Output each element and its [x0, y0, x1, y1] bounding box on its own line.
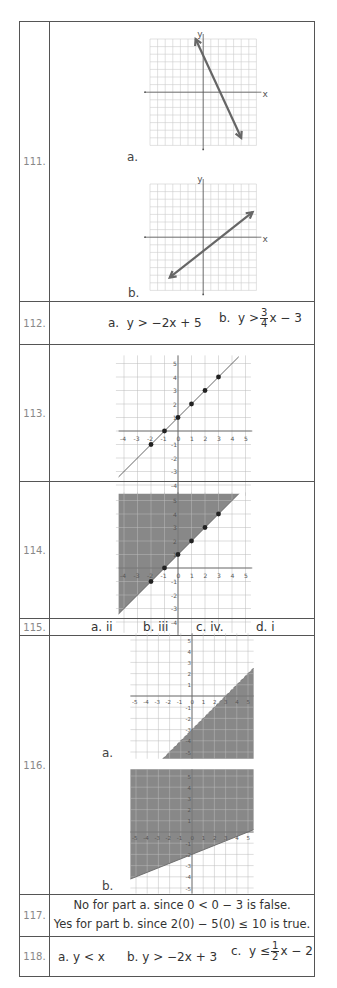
svg-text:1: 1 — [190, 572, 194, 579]
answer-a: a. y < x — [58, 950, 105, 964]
row-116: 116. -5-4-3-2-101234554321-1-2-3-4-5 a. … — [20, 635, 314, 894]
svg-text:-3: -3 — [154, 835, 160, 841]
svg-text:-2: -2 — [166, 835, 171, 841]
svg-text:-3: -3 — [134, 572, 140, 579]
svg-text:2: 2 — [204, 572, 208, 579]
svg-text:-3: -3 — [154, 699, 160, 705]
svg-text:2: 2 — [213, 699, 217, 705]
svg-text:5: 5 — [244, 572, 248, 579]
svg-text:-2: -2 — [147, 435, 153, 442]
answer-line-1: No for part a. since 0 < 0 − 3 is false. — [50, 898, 314, 912]
svg-text:1: 1 — [190, 435, 194, 442]
row-114: 114. -4-3-2-101234554321-1-2-3-4 — [20, 481, 314, 618]
svg-text:1: 1 — [202, 699, 206, 705]
svg-text:4: 4 — [173, 374, 177, 381]
svg-text:0: 0 — [177, 572, 181, 579]
svg-text:2: 2 — [173, 401, 177, 408]
svg-text:4: 4 — [173, 511, 177, 518]
graph-111a: xy — [130, 27, 270, 152]
graph-113: -4-3-2-101234554321-1-2-3-4 — [114, 345, 274, 482]
row-content: -5-4-3-2-101234554321-1-2-3-4-5 a. -5-4-… — [50, 636, 314, 894]
svg-text:-3: -3 — [171, 468, 177, 475]
svg-text:-3: -3 — [134, 435, 140, 442]
svg-text:2: 2 — [173, 538, 177, 545]
row-number: 114. — [20, 482, 50, 618]
svg-text:0: 0 — [191, 699, 195, 705]
svg-text:3: 3 — [224, 699, 228, 705]
svg-text:5: 5 — [173, 360, 177, 367]
svg-text:y: y — [197, 174, 203, 184]
svg-text:-4: -4 — [143, 835, 149, 841]
svg-text:-5: -5 — [186, 886, 192, 892]
part-label-a: a. — [127, 150, 138, 164]
svg-text:-5: -5 — [186, 750, 192, 756]
svg-text:-3: -3 — [186, 727, 192, 733]
svg-text:2: 2 — [188, 671, 192, 677]
row-number: 116. — [20, 636, 50, 894]
row-content: a. ii b. iii c. iv. d. i — [50, 619, 314, 635]
svg-text:-4: -4 — [120, 572, 126, 579]
answer-b: b. iii — [143, 620, 168, 634]
svg-text:4: 4 — [231, 572, 235, 579]
graph-116a: -5-4-3-2-101234554321-1-2-3-4-5 — [130, 638, 260, 762]
svg-text:-1: -1 — [186, 841, 191, 847]
svg-text:3: 3 — [217, 435, 221, 442]
svg-text:-3: -3 — [186, 863, 192, 869]
svg-text:5: 5 — [247, 699, 251, 705]
answer-b: b. y >34x − 3 — [219, 308, 302, 329]
svg-text:3: 3 — [217, 572, 221, 579]
svg-text:-1: -1 — [161, 435, 167, 442]
svg-text:4: 4 — [188, 649, 192, 655]
svg-text:-1: -1 — [161, 572, 167, 579]
svg-text:x: x — [262, 89, 268, 99]
svg-text:0: 0 — [177, 435, 181, 442]
svg-text:-1: -1 — [171, 578, 177, 585]
answer-b: b. y > −2x + 3 — [127, 950, 217, 964]
answer-table: 111. xy a. xy b. 112. a. y > −2x + 5 b. … — [19, 21, 315, 977]
row-113: 113. -4-3-2-101234554321-1-2-3-4 — [20, 344, 314, 481]
svg-text:-2: -2 — [186, 716, 191, 722]
svg-text:-5: -5 — [132, 835, 138, 841]
row-content: xy a. xy b. — [50, 22, 314, 301]
svg-text:-1: -1 — [177, 699, 182, 705]
svg-text:2: 2 — [213, 835, 217, 841]
row-118: 118. a. y < x b. y > −2x + 3 c. y ≤12x −… — [20, 936, 314, 976]
svg-text:1: 1 — [188, 682, 192, 688]
row-number: 111. — [20, 22, 50, 301]
answer-d: d. i — [256, 620, 275, 634]
svg-text:1: 1 — [188, 818, 192, 824]
svg-text:-2: -2 — [171, 592, 177, 599]
svg-text:-2: -2 — [147, 572, 153, 579]
row-content: No for part a. since 0 < 0 − 3 is false.… — [50, 895, 314, 936]
answer-a: a. ii — [91, 620, 113, 634]
svg-text:5: 5 — [173, 497, 177, 504]
svg-text:-4: -4 — [186, 874, 192, 880]
svg-text:4: 4 — [188, 785, 192, 791]
svg-text:2: 2 — [204, 435, 208, 442]
svg-text:5: 5 — [188, 774, 192, 780]
svg-text:-2: -2 — [166, 699, 171, 705]
answer-line-2: Yes for part b. since 2(0) − 5(0) ≤ 10 i… — [50, 917, 314, 931]
row-number: 117. — [20, 895, 50, 936]
row-content: a. y < x b. y > −2x + 3 c. y ≤12x − 2 — [50, 937, 314, 976]
svg-text:3: 3 — [188, 660, 192, 666]
answer-c: c. y ≤12x − 2 — [231, 941, 313, 962]
row-number: 113. — [20, 345, 50, 481]
row-content: a. y > −2x + 5 b. y >34x − 3 — [50, 302, 314, 344]
svg-text:3: 3 — [173, 524, 177, 531]
part-label-b: b. — [102, 879, 113, 893]
svg-text:-4: -4 — [120, 435, 126, 442]
graph-116b: -5-4-3-2-101234554321-1-2-3-4-5 — [130, 766, 260, 894]
svg-text:5: 5 — [188, 638, 192, 644]
row-number: 115. — [20, 619, 50, 635]
answer-a: a. y > −2x + 5 — [108, 316, 202, 330]
svg-text:-5: -5 — [132, 699, 138, 705]
svg-text:0: 0 — [191, 835, 195, 841]
svg-text:5: 5 — [244, 435, 248, 442]
svg-text:-3: -3 — [171, 605, 177, 612]
svg-text:3: 3 — [188, 796, 192, 802]
graph-111b: xy — [130, 172, 270, 297]
row-content: -4-3-2-101234554321-1-2-3-4 — [50, 482, 314, 618]
answer-c: c. iv. — [196, 620, 224, 634]
row-number: 118. — [20, 937, 50, 976]
